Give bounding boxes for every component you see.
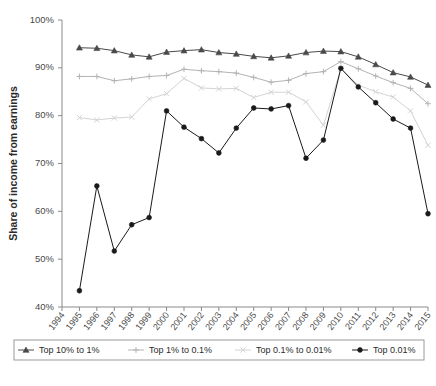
x-tick-label: 2011 <box>343 310 363 331</box>
data-point <box>373 73 379 79</box>
y-axis: 40%50%60%70%80%90%100% <box>30 14 62 312</box>
x-tick-label: 2012 <box>360 310 380 332</box>
data-point <box>129 222 134 227</box>
legend: Top 10% to 1%Top 1% to 0.1%Top 0.1% to 0… <box>14 340 424 360</box>
x-tick-label: 2009 <box>308 310 328 332</box>
data-point <box>390 80 396 86</box>
y-tick-label: 40% <box>35 301 55 312</box>
data-point <box>408 126 413 131</box>
data-point <box>251 106 256 111</box>
data-point <box>199 68 205 74</box>
data-point <box>251 95 256 100</box>
data-point <box>164 91 169 96</box>
data-point <box>286 77 292 83</box>
data-point <box>129 76 135 82</box>
x-tick-label: 2001 <box>168 310 188 332</box>
data-point <box>147 96 152 101</box>
y-tick-label: 70% <box>35 157 55 168</box>
data-point <box>390 70 396 75</box>
x-tick-label: 2005 <box>238 310 258 332</box>
y-tick-label: 100% <box>30 14 55 25</box>
data-point <box>216 69 222 75</box>
x-tick-label: 1995 <box>64 310 84 332</box>
x-tick-label: 1998 <box>116 310 136 332</box>
y-tick-label: 60% <box>35 205 55 216</box>
data-point <box>233 70 239 76</box>
x-tick-label: 1997 <box>99 310 119 332</box>
legend-label: Top 10% to 1% <box>39 345 100 355</box>
svg-text:Share of income from earnings: Share of income from earnings <box>7 86 19 241</box>
data-point <box>408 108 413 113</box>
y-tick-label: 50% <box>35 253 55 264</box>
data-point <box>373 89 378 94</box>
data-point <box>181 76 186 81</box>
data-point <box>358 348 363 353</box>
data-point <box>321 69 327 75</box>
data-point <box>355 66 361 72</box>
x-tick-label: 2008 <box>290 310 310 332</box>
x-axis: 1994199519961997199819992000200120022003… <box>46 307 432 332</box>
data-point <box>391 94 396 99</box>
data-point <box>146 74 152 80</box>
x-tick-label: 1996 <box>81 310 101 332</box>
data-point <box>181 66 187 72</box>
data-point <box>94 184 99 189</box>
data-point <box>303 71 309 77</box>
data-point <box>234 126 239 131</box>
data-point <box>77 288 82 293</box>
data-point <box>286 103 291 108</box>
data-point <box>356 85 361 90</box>
data-point <box>338 66 343 71</box>
data-point <box>391 117 396 122</box>
x-tick-label: 2000 <box>151 310 171 332</box>
data-point <box>164 73 170 79</box>
data-point <box>321 138 326 143</box>
data-point <box>269 107 274 112</box>
data-point <box>182 125 187 130</box>
legend-label: Top 0.01% <box>373 345 416 355</box>
x-tick-label: 2002 <box>186 310 206 332</box>
x-tick-label: 2013 <box>378 310 398 332</box>
series-top-10-to-1 <box>76 45 431 88</box>
data-point <box>426 211 431 216</box>
data-point <box>304 156 309 161</box>
series-top-0-01 <box>77 66 430 293</box>
data-point <box>303 99 308 104</box>
data-point <box>199 136 204 141</box>
x-tick-label: 2006 <box>256 310 276 332</box>
x-tick-label: 2003 <box>203 310 223 332</box>
data-point <box>216 151 221 156</box>
data-point <box>164 108 169 113</box>
data-point <box>373 100 378 105</box>
data-point <box>338 59 344 65</box>
x-tick-label: 2015 <box>412 310 432 332</box>
data-point <box>321 123 326 128</box>
x-tick-label: 2007 <box>273 310 293 332</box>
legend-label: Top 0.1% to 0.01% <box>256 345 332 355</box>
y-tick-label: 80% <box>35 109 55 120</box>
y-tick-label: 90% <box>35 61 55 72</box>
data-point <box>94 74 100 80</box>
line-chart: 40%50%60%70%80%90%100%Share of income fr… <box>0 0 436 366</box>
x-tick-label: 1999 <box>134 310 154 332</box>
y-axis-title: Share of income from earnings <box>7 86 19 241</box>
data-point <box>147 215 152 220</box>
data-point <box>251 75 257 81</box>
data-point <box>425 143 430 148</box>
x-tick-label: 2004 <box>221 310 241 332</box>
x-tick-label: 2014 <box>395 310 415 332</box>
data-point <box>268 79 274 85</box>
x-tick-label: 1994 <box>46 310 66 332</box>
legend-label: Top 1% to 0.1% <box>149 345 212 355</box>
data-point <box>425 82 431 87</box>
data-point <box>77 74 83 80</box>
x-tick-label: 2010 <box>325 310 345 332</box>
data-point <box>112 249 117 254</box>
data-point <box>111 78 117 84</box>
figure-container: 40%50%60%70%80%90%100%Share of income fr… <box>0 0 436 386</box>
data-point <box>373 61 379 66</box>
